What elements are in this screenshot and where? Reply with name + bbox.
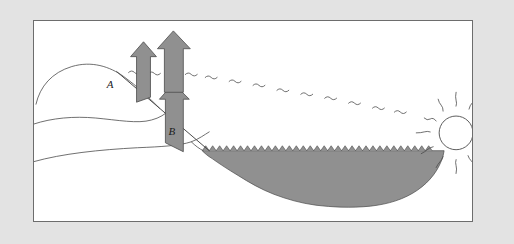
water-surface-waves [202, 146, 432, 151]
water-fill-shape [202, 151, 444, 208]
ray-seg [325, 97, 337, 100]
sun-ray [469, 97, 472, 109]
ray-seg [277, 89, 289, 92]
sun-ray [424, 118, 436, 121]
arrow-b-upper-shape [157, 31, 190, 92]
sun-disc [439, 116, 472, 150]
figure-root: A B Solar radiation and water heating di… [0, 0, 514, 244]
slope-stroke [117, 71, 210, 150]
sun-ray [416, 131, 430, 132]
label-point-b: B [168, 125, 175, 137]
ray-seg [229, 80, 241, 83]
sun-ray [438, 99, 443, 111]
figure-panel: A B [33, 20, 473, 222]
ray-seg [185, 73, 197, 76]
ray-seg [394, 111, 406, 114]
ray-seg [372, 107, 384, 110]
scene-illustration: A B [34, 21, 472, 221]
shore-notch-line [191, 142, 203, 151]
ray-seg [253, 84, 265, 87]
sun-ray [468, 156, 472, 167]
sun-ray [456, 92, 457, 106]
ray-seg [349, 102, 361, 105]
label-point-a: A [106, 78, 114, 90]
sawtooth-wave-path [202, 146, 432, 151]
hill-ridge-line [34, 110, 169, 124]
ray-seg [205, 76, 217, 79]
ray-seg [301, 93, 313, 96]
water-body [202, 151, 444, 208]
sun-ray [456, 160, 457, 174]
hill-slope-line [117, 71, 210, 150]
arrow-b-lower-shape [159, 83, 189, 151]
